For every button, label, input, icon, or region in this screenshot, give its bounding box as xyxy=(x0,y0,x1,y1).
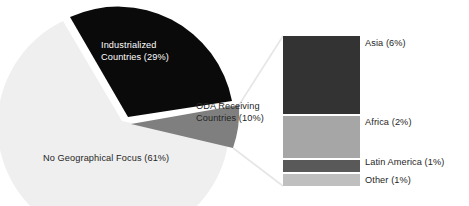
pie-label-oda-receiving-countries: ODA Receiving Countries (10%) xyxy=(196,100,264,125)
pie-label-oda-line1: ODA Receiving xyxy=(196,100,264,112)
bar-label-latin-america: Latin America (1%) xyxy=(365,157,444,168)
pie-label-industrialized-countries: Industrialized Countries (29%) xyxy=(101,39,169,64)
bar-segment-africa xyxy=(283,116,360,158)
pie-label-industrialized-line1: Industrialized xyxy=(101,39,169,51)
callout-line-lower xyxy=(233,148,283,186)
bar-label-africa: Africa (2%) xyxy=(365,117,412,128)
pie-label-oda-line2: Countries (10%) xyxy=(196,112,264,124)
pie-chart-with-breakout-figure: Industrialized Countries (29%) ODA Recei… xyxy=(0,0,469,206)
bar-segment-other xyxy=(283,174,360,186)
bar-label-other: Other (1%) xyxy=(365,175,411,186)
bar-segment-latin-america xyxy=(283,160,360,172)
bar-label-asia: Asia (6%) xyxy=(365,38,406,49)
bar-segment-asia xyxy=(283,36,360,114)
breakout-stacked-bar xyxy=(283,36,360,186)
pie-label-no-geographical-focus: No Geographical Focus (61%) xyxy=(43,152,169,164)
callout-line-upper xyxy=(239,36,283,105)
pie-label-industrialized-line2: Countries (29%) xyxy=(101,51,169,63)
